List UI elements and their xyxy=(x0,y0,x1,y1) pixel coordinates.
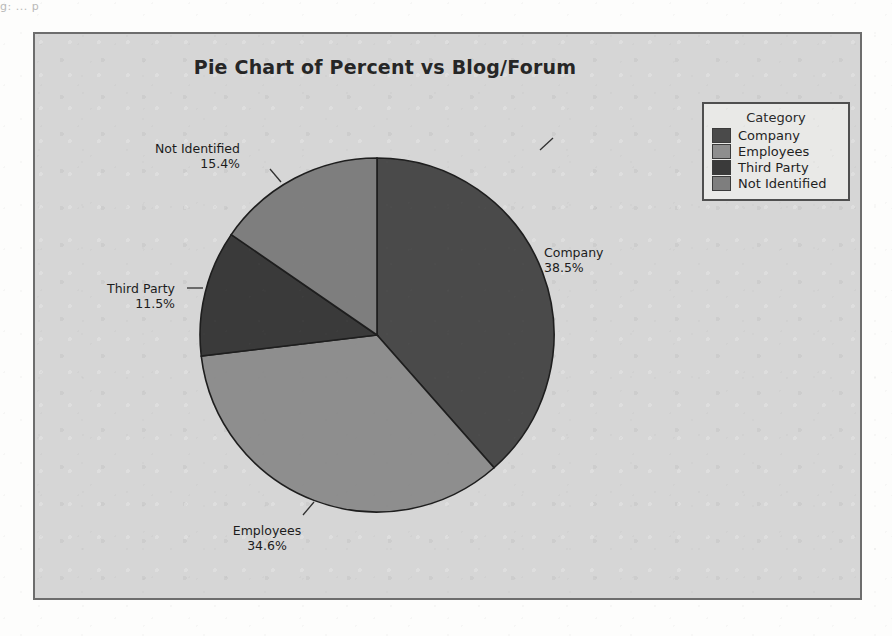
pie-label-third-party-percent: 11.5% xyxy=(55,297,175,312)
pie-label-employees-name: Employees xyxy=(233,523,301,538)
legend: Category Company Employees Third Party N… xyxy=(702,102,850,201)
legend-item-not-identified[interactable]: Not Identified xyxy=(712,176,840,191)
legend-item-employees[interactable]: Employees xyxy=(712,144,840,159)
legend-label-employees: Employees xyxy=(738,144,809,159)
legend-swatch-employees xyxy=(712,144,731,159)
legend-label-company: Company xyxy=(738,128,800,143)
pie-label-company-name: Company xyxy=(544,245,603,260)
pie-label-not-identified-name: Not Identified xyxy=(155,141,240,156)
pie-label-employees-percent: 34.6% xyxy=(207,539,327,554)
legend-item-third-party[interactable]: Third Party xyxy=(712,160,840,175)
leader-line-company xyxy=(540,138,553,150)
leader-line-not-identified xyxy=(270,169,281,182)
legend-swatch-third-party xyxy=(712,160,731,175)
chart-frame: Pie Chart of Percent vs Blog/Forum Compa… xyxy=(33,32,862,600)
legend-swatch-not-identified xyxy=(712,176,731,191)
pie-label-third-party-name: Third Party xyxy=(107,281,175,296)
legend-swatch-company xyxy=(712,128,731,143)
pie-label-company-percent: 38.5% xyxy=(544,261,603,276)
pie-label-not-identified-percent: 15.4% xyxy=(95,157,240,172)
legend-label-third-party: Third Party xyxy=(738,160,809,175)
pie-label-third-party: Third Party 11.5% xyxy=(55,282,175,312)
scanned-page: g: ... p Pie Chart of Percent vs Blog/Fo… xyxy=(0,0,892,636)
pie-label-employees: Employees 34.6% xyxy=(207,524,327,554)
pie-label-company: Company 38.5% xyxy=(544,246,603,276)
leader-line-employees xyxy=(303,502,314,515)
scan-text-fragment: g: ... p xyxy=(0,0,200,18)
legend-title: Category xyxy=(712,110,840,125)
legend-item-company[interactable]: Company xyxy=(712,128,840,143)
legend-label-not-identified: Not Identified xyxy=(738,176,826,191)
pie-label-not-identified: Not Identified 15.4% xyxy=(95,142,240,172)
